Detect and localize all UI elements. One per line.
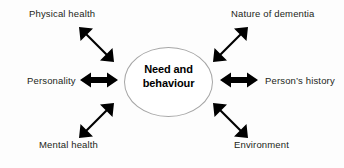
double-arrow-horizontal-icon-personality — [80, 72, 118, 88]
center-label: Need and behaviour — [124, 63, 213, 90]
double-arrow-diagonal-icon-mental-health — [78, 102, 116, 136]
double-arrow-diagonal-icon-nature-of-dementia — [212, 26, 250, 60]
factor-label-nature-of-dementia: Nature of dementia — [231, 9, 315, 19]
need-and-behaviour-diagram: Physical health Nature of dementia Perso… — [0, 0, 344, 168]
double-arrow-diagonal-icon-environment — [212, 102, 250, 136]
factor-label-environment: Environment — [234, 140, 289, 150]
factor-label-personality: Personality — [27, 76, 76, 86]
factor-label-physical-health: Physical health — [29, 9, 95, 19]
center-label-line1: Need and — [144, 63, 193, 75]
double-arrow-horizontal-icon-persons-history — [220, 72, 258, 88]
center-label-line2: behaviour — [143, 77, 195, 89]
factor-label-mental-health: Mental health — [39, 140, 98, 150]
factor-label-persons-history: Person’s history — [265, 76, 335, 86]
double-arrow-diagonal-icon-physical-health — [78, 26, 116, 60]
